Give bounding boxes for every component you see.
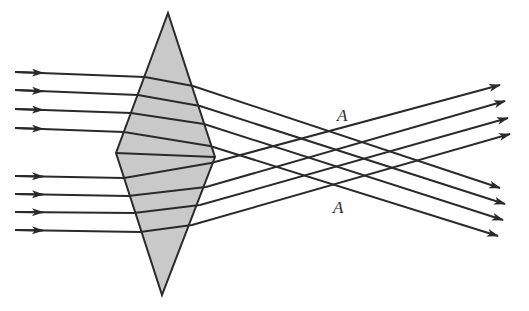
- light-rays: [15, 72, 510, 236]
- lower-ray-2: [15, 101, 505, 196]
- label-A-2: A: [332, 198, 344, 217]
- biprism-diagram: AA: [0, 0, 529, 311]
- intersection-labels: AA: [332, 106, 348, 217]
- upper-ray-4: [15, 128, 498, 236]
- label-A-1: A: [336, 106, 348, 125]
- upper-ray-2: [15, 90, 505, 204]
